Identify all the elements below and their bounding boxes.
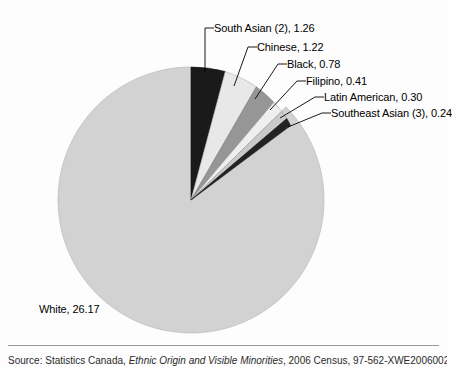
source-note: Source: Statistics Canada, Ethnic Origin…	[8, 355, 447, 367]
source-divider	[8, 345, 439, 346]
slice-label-chinese: Chinese, 1.22	[257, 41, 324, 53]
slice-label-white: White, 26.17	[39, 303, 100, 315]
slice-label-latin-american: Latin American, 0.30	[324, 91, 422, 103]
source-publication-title: Ethnic Origin and Visible Minorities	[129, 355, 283, 366]
slice-label-south-asian: South Asian (2), 1.26	[214, 22, 315, 34]
source-prefix: Source: Statistics Canada,	[8, 355, 129, 366]
slice-label-southeast-asian: Southeast Asian (3), 0.24	[331, 107, 452, 119]
slice-label-black: Black, 0.78	[287, 58, 340, 70]
slice-label-filipino: Filipino, 0.41	[306, 75, 367, 87]
leader-line-south-asian	[205, 28, 214, 72]
source-suffix: , 2006 Census, 97-562-XWE2006002	[283, 355, 447, 366]
